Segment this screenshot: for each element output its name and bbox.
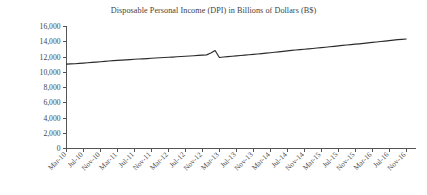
x-axis: Mar-10Jul-10Nov-10Mar-11Jul-11Nov-11Mar-…	[46, 149, 416, 173]
y-tick-label: 8,000	[43, 83, 60, 92]
dpi-series-line	[67, 39, 407, 64]
x-tick-label: Nov-15	[334, 150, 357, 173]
y-tick-label: 6,000	[43, 98, 60, 107]
x-tick-label: Mar-11	[97, 150, 119, 172]
x-tick-label: Mar-10	[46, 150, 68, 172]
x-tick-label: Mar-14	[250, 150, 272, 172]
y-tick-label: 2,000	[43, 129, 60, 138]
chart-container: Disposable Personal Income (DPI) in Bill…	[0, 0, 427, 195]
x-tick-label: Mar-15	[301, 150, 323, 172]
y-tick-label: 14,000	[40, 37, 61, 46]
data-series-group	[67, 39, 407, 64]
y-tick-label: 12,000	[40, 53, 61, 62]
x-tick-label: Mar-13	[199, 150, 221, 172]
y-tick-label: 10,000	[40, 68, 61, 77]
x-tick-label: Nov-14	[283, 150, 306, 173]
x-tick-label: Mar-16	[352, 150, 374, 172]
x-tick-label: Nov-13	[232, 150, 255, 173]
y-tick-label: 16,000	[40, 22, 61, 31]
y-axis: 02,0004,0006,0008,00010,00012,00014,0001…	[40, 22, 67, 153]
x-tick-label: Nov-16	[385, 150, 408, 173]
y-tick-label: 4,000	[43, 114, 60, 123]
line-chart-plot: 02,0004,0006,0008,00010,00012,00014,0001…	[0, 0, 427, 195]
x-tick-label: Mar-12	[148, 150, 170, 172]
x-tick-label: Nov-12	[181, 150, 204, 173]
x-tick-label: Nov-10	[80, 150, 103, 173]
